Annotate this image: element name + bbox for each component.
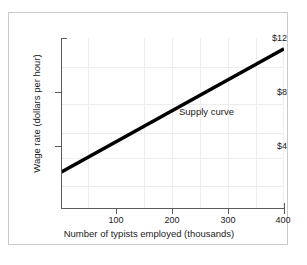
- y-axis-top-cap: [61, 38, 67, 39]
- y-axis-title: Wage rate (dollars per hour): [31, 39, 42, 189]
- x-tick-mark: [116, 209, 117, 214]
- y-tick-label-4: $4: [243, 142, 287, 151]
- x-tick-mark: [284, 209, 285, 214]
- y-tick-label-8: $8: [243, 88, 287, 97]
- y-tick-mark: [55, 146, 61, 147]
- x-tick-label-300: 300: [208, 216, 248, 225]
- x-tick-label-200: 200: [152, 216, 192, 225]
- x-tick-label-100: 100: [96, 216, 136, 225]
- supply-curve-label: Supply curve: [179, 106, 234, 117]
- supply-curve-line: [61, 49, 284, 173]
- y-axis-line: [61, 38, 62, 209]
- supply-curve: [61, 38, 284, 208]
- x-axis-line: [61, 208, 285, 209]
- plot-area: [61, 38, 284, 208]
- y-tick-mark: [55, 92, 61, 93]
- figure-frame: $12 $8 $4 100 200 300 400 Number of typi…: [8, 12, 288, 245]
- x-tick-mark: [172, 209, 173, 214]
- x-tick-label-400: 400: [263, 216, 303, 225]
- y-tick-label-12: $12: [243, 34, 287, 43]
- x-axis-title: Number of typists employed (thousands): [9, 228, 289, 239]
- x-tick-mark: [228, 209, 229, 214]
